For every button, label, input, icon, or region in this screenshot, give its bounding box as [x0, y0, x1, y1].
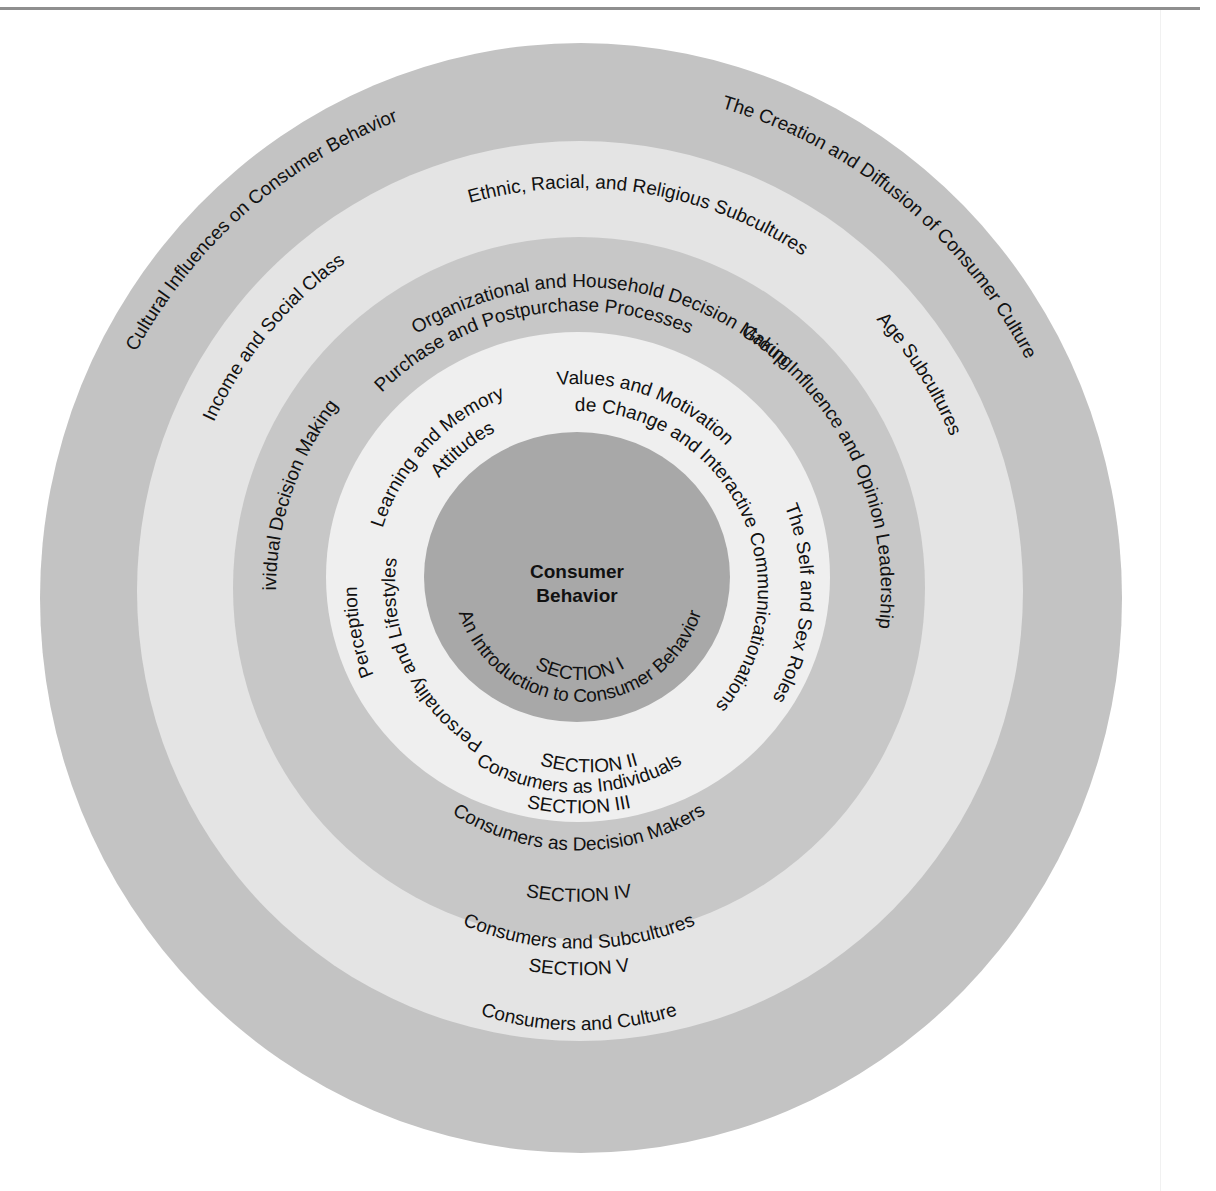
core-title-line1: Consumer [530, 561, 625, 582]
consumer-behavior-ring-diagram: Cultural Influences on Consumer Behavior… [0, 0, 1216, 1191]
core-title-line2: Behavior [536, 585, 618, 606]
